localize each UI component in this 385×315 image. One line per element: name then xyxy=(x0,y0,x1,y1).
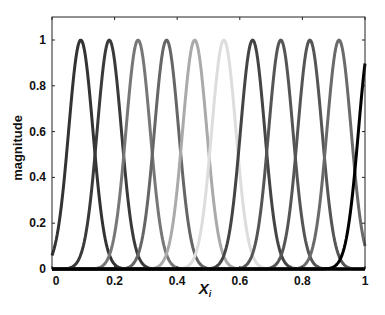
y-tick-label: 0.4 xyxy=(29,170,46,184)
x-axis-label: Xi xyxy=(198,280,212,299)
x-tick-label: 0 xyxy=(53,274,60,288)
y-tick-label: 0.6 xyxy=(29,125,46,139)
x-tick-label: 0.6 xyxy=(231,274,248,288)
x-tick-label: 1 xyxy=(362,274,369,288)
y-axis-label: magnitude xyxy=(10,115,25,181)
chart: 00.20.40.60.8100.20.40.60.81 Xi magnitud… xyxy=(0,0,385,315)
x-tick-label: 0.2 xyxy=(106,274,123,288)
y-tick-label: 0.2 xyxy=(29,216,46,230)
y-tick-label: 1 xyxy=(39,33,46,47)
y-tick-label: 0.8 xyxy=(29,79,46,93)
x-tick-label: 0.8 xyxy=(294,274,311,288)
curves-group xyxy=(52,40,365,269)
y-tick-label: 0 xyxy=(39,262,46,276)
x-tick-label: 0.4 xyxy=(169,274,186,288)
